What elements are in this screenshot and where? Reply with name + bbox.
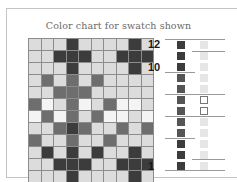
- dark-swatch: [177, 140, 185, 148]
- chart-cell: [129, 147, 141, 158]
- chart-cell: [29, 51, 41, 62]
- dark-swatch: [177, 162, 185, 170]
- chart-title: Color chart for swatch shown: [0, 20, 237, 31]
- chart-cell: [142, 75, 154, 86]
- chart-cell: [79, 39, 91, 50]
- divider-line: [192, 51, 225, 52]
- chart-cell: [42, 147, 54, 158]
- chart-cell: [42, 123, 54, 134]
- chart-cell: [92, 123, 104, 134]
- chart-cell: [142, 147, 154, 158]
- chart-cell: [79, 147, 91, 158]
- light-swatch: [200, 63, 208, 71]
- chart-cell: [129, 111, 141, 122]
- chart-cell: [42, 171, 54, 182]
- chart-cell: [104, 111, 116, 122]
- chart-cell: [54, 171, 66, 182]
- chart-cell: [129, 159, 141, 170]
- chart-cell: [129, 99, 141, 110]
- chart-cell: [67, 147, 79, 158]
- chart-cell: [104, 63, 116, 74]
- dark-swatch: [177, 85, 185, 93]
- chart-cell: [79, 63, 91, 74]
- chart-cell: [92, 63, 104, 74]
- chart-cell: [79, 51, 91, 62]
- chart-cell: [92, 99, 104, 110]
- chart-cell: [142, 87, 154, 98]
- chart-cell: [129, 51, 141, 62]
- chart-cell: [79, 135, 91, 146]
- chart-cell: [54, 51, 66, 62]
- chart-cell: [67, 171, 79, 182]
- chart-cell: [67, 39, 79, 50]
- dark-swatch: [177, 107, 185, 115]
- chart-cell: [104, 159, 116, 170]
- chart-cell: [117, 99, 129, 110]
- chart-cell: [67, 111, 79, 122]
- chart-cell: [117, 159, 129, 170]
- chart-cell: [117, 39, 129, 50]
- divider-line: [165, 116, 225, 117]
- divider-line: [192, 159, 225, 160]
- chart-cell: [42, 75, 54, 86]
- chart-cell: [117, 147, 129, 158]
- chart-cell: [54, 39, 66, 50]
- chart-cell: [79, 99, 91, 110]
- chart-cell: [29, 159, 41, 170]
- dark-swatch: [177, 63, 185, 71]
- chart-cell: [92, 147, 104, 158]
- light-swatch: [200, 41, 208, 49]
- chart-cell: [104, 171, 116, 182]
- light-swatch: [200, 129, 208, 137]
- chart-cell: [79, 87, 91, 98]
- divider-line: [165, 72, 195, 73]
- divider-line: [165, 94, 225, 95]
- chart-cell: [117, 63, 129, 74]
- chart-cell: [129, 75, 141, 86]
- chart-cell: [29, 87, 41, 98]
- white-swatch: [200, 107, 208, 115]
- row-label-12: 12: [148, 38, 160, 50]
- chart-cell: [92, 87, 104, 98]
- chart-cell: [67, 63, 79, 74]
- chart-cell: [142, 171, 154, 182]
- chart-cell: [117, 75, 129, 86]
- chart-cell: [92, 135, 104, 146]
- chart-cell: [29, 111, 41, 122]
- chart-cell: [42, 135, 54, 146]
- dark-swatch: [177, 52, 185, 60]
- chart-cell: [54, 111, 66, 122]
- chart-cell: [104, 87, 116, 98]
- chart-cell: [54, 135, 66, 146]
- light-swatch: [200, 151, 208, 159]
- chart-cell: [104, 51, 116, 62]
- chart-cell: [129, 87, 141, 98]
- chart-cell: [104, 123, 116, 134]
- chart-cell: [104, 147, 116, 158]
- chart-cell: [92, 111, 104, 122]
- light-swatch: [200, 140, 208, 148]
- chart-cell: [104, 135, 116, 146]
- chart-cell: [67, 87, 79, 98]
- chart-cell: [54, 63, 66, 74]
- chart-cell: [129, 171, 141, 182]
- chart-cell: [142, 123, 154, 134]
- chart-cell: [67, 135, 79, 146]
- chart-cell: [104, 99, 116, 110]
- dark-swatch: [177, 96, 185, 104]
- chart-cell: [129, 135, 141, 146]
- chart-cell: [129, 123, 141, 134]
- chart-cell: [67, 123, 79, 134]
- chart-cell: [54, 87, 66, 98]
- dark-swatch: [177, 151, 185, 159]
- light-swatch: [200, 52, 208, 60]
- chart-cell: [117, 111, 129, 122]
- row-label-10: 10: [148, 61, 160, 73]
- chart-cell: [42, 87, 54, 98]
- chart-cell: [117, 51, 129, 62]
- chart-cell: [29, 135, 41, 146]
- chart-cell: [79, 111, 91, 122]
- chart-cell: [79, 75, 91, 86]
- chart-cell: [29, 147, 41, 158]
- chart-cell: [142, 135, 154, 146]
